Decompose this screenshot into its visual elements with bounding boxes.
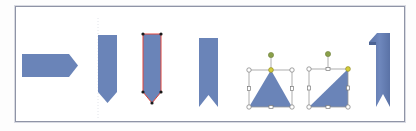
slide-canvas <box>0 0 416 131</box>
adjust-handle <box>346 67 351 72</box>
isosceles-triangle-shape[interactable] <box>244 50 296 112</box>
folded-bookmark-shape[interactable] <box>369 32 395 110</box>
pentagon-arrow-shape[interactable] <box>22 53 80 79</box>
vertical-pentagon-shape[interactable] <box>98 34 118 104</box>
rotate-handle <box>268 52 273 57</box>
ribbon-tail-shape[interactable] <box>199 37 220 109</box>
vertical-pentagon-selected-shape[interactable] <box>140 31 166 107</box>
rotate-handle <box>325 51 330 56</box>
adjust-handle <box>269 68 274 73</box>
right-triangle-shape[interactable] <box>305 48 355 112</box>
